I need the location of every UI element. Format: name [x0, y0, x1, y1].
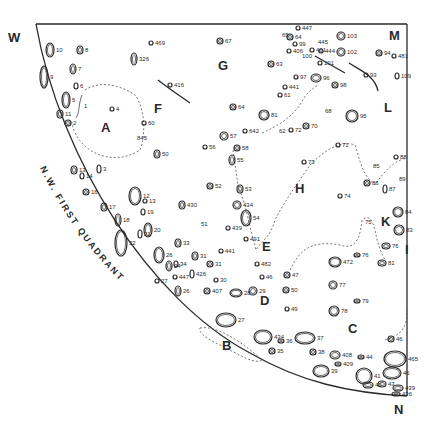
crater-rim [336, 143, 340, 147]
crater-rim [80, 173, 84, 179]
crater-38: 38 [310, 349, 325, 355]
crater-number: 100 [302, 53, 313, 59]
crater-447: 447 [296, 25, 313, 31]
crater-number: 64 [295, 34, 302, 40]
region-H: H [295, 181, 304, 196]
region-K: K [381, 214, 391, 229]
crater-number: 481 [398, 53, 409, 59]
crater-number: 26 [166, 252, 173, 258]
crater-79: 79 [354, 298, 369, 304]
crater-rim [216, 313, 236, 327]
crater-26: 26 [175, 286, 190, 296]
crater-1: 1 [84, 103, 88, 109]
crater-326: 326 [131, 53, 150, 65]
crater-number: 31 [200, 253, 207, 259]
crater-55: 55 [229, 155, 244, 165]
crater-rim [283, 85, 287, 89]
crater-50: 50 [154, 150, 169, 158]
crater-inner-rim [209, 185, 212, 188]
crater-436: 436 [392, 391, 413, 397]
crater-inner-rim [181, 203, 184, 208]
crater-14: 14 [80, 173, 93, 179]
quadrant-title: N.W. FIRST QUADRANT [38, 164, 126, 283]
crater-81: 81 [259, 110, 278, 120]
crater-number: 99 [299, 41, 306, 47]
crater-17: 17 [101, 203, 116, 211]
crater-number: 77 [339, 282, 346, 288]
crater-number: 98 [340, 82, 347, 88]
crater-31: 31 [192, 252, 207, 260]
crater-number: 434 [243, 202, 254, 208]
crater-rim [219, 249, 223, 253]
crater-78: 78 [329, 306, 348, 316]
crater-inner-rim [331, 308, 338, 315]
crater-rim [155, 279, 159, 283]
crater-number: 430 [187, 202, 198, 208]
crater-95: 95 [346, 110, 367, 122]
crater-inner-rim [42, 68, 47, 87]
crater-64: 64 [287, 34, 302, 40]
crater-number: 439 [232, 225, 243, 231]
crater-rim [255, 262, 259, 266]
crater-13: 13 [71, 166, 86, 174]
crater-number: 71 [342, 142, 349, 148]
crater-37: 37 [295, 332, 324, 344]
crater-rim [310, 349, 316, 355]
crater-inner-rim [378, 52, 381, 55]
crater-inner-rim [395, 209, 402, 216]
crater-number: 76 [362, 252, 369, 258]
crater-441: 441 [219, 248, 236, 254]
crater-number: 63 [276, 61, 283, 67]
crater-inner-rim [73, 168, 76, 173]
crater-472: 472 [329, 257, 354, 267]
crater-86: 86 [364, 180, 379, 186]
crater-number: 35 [277, 348, 284, 354]
crater-inner-rim [218, 315, 235, 326]
crater-465: 465 [384, 351, 419, 367]
crater-inner-rim [385, 369, 400, 378]
crater-85: 85 [373, 163, 380, 169]
crater-rim [204, 288, 210, 294]
crater-96: 96 [311, 74, 330, 82]
crater-63: 63 [268, 61, 283, 67]
crater-number: 57 [230, 133, 237, 139]
crater-rim [173, 275, 177, 279]
crater-inner-rim [222, 134, 227, 139]
crater-number: 54 [253, 215, 260, 221]
crater-number: 72 [295, 127, 302, 133]
region-E: E [262, 239, 271, 254]
crater-number: 62 [279, 128, 286, 134]
region-A: A [101, 120, 111, 135]
crater-number: 81 [388, 260, 395, 266]
crater-number: 27 [161, 278, 168, 284]
crater-inner-rim [235, 203, 240, 208]
crater-number: 3 [103, 166, 107, 172]
crater-number: 444 [325, 48, 336, 54]
crater-number: 7 [78, 66, 82, 72]
crater-number: 61 [284, 92, 291, 98]
crater-number: 79 [362, 298, 369, 304]
crater-408: 408 [330, 351, 353, 359]
crater-number: 326 [139, 56, 150, 62]
crater-inner-rim [386, 353, 405, 366]
crater-number: 447 [179, 274, 190, 280]
crater-number: 37 [317, 335, 324, 341]
crater-439: 439 [226, 225, 243, 231]
crater-46: 46 [383, 367, 410, 379]
crater-number: 18 [123, 217, 130, 223]
crater-inner-rim [271, 350, 274, 353]
crater-number: 27 [238, 317, 245, 323]
crater-number: 845 [137, 135, 148, 141]
crater-number: 16 [91, 189, 98, 195]
crater-70: 70 [303, 123, 318, 129]
crater-rim [383, 185, 387, 193]
crater-inner-rim [331, 283, 336, 288]
crater-inner-rim [286, 274, 289, 277]
crater-number: 445 [318, 39, 329, 45]
crater-rim [392, 54, 396, 58]
crater-number: 46 [396, 336, 403, 342]
crater-77: 77 [329, 281, 346, 289]
crater-number: 70 [311, 123, 318, 129]
crater-430: 430 [179, 201, 198, 209]
crater-rim [395, 73, 399, 79]
